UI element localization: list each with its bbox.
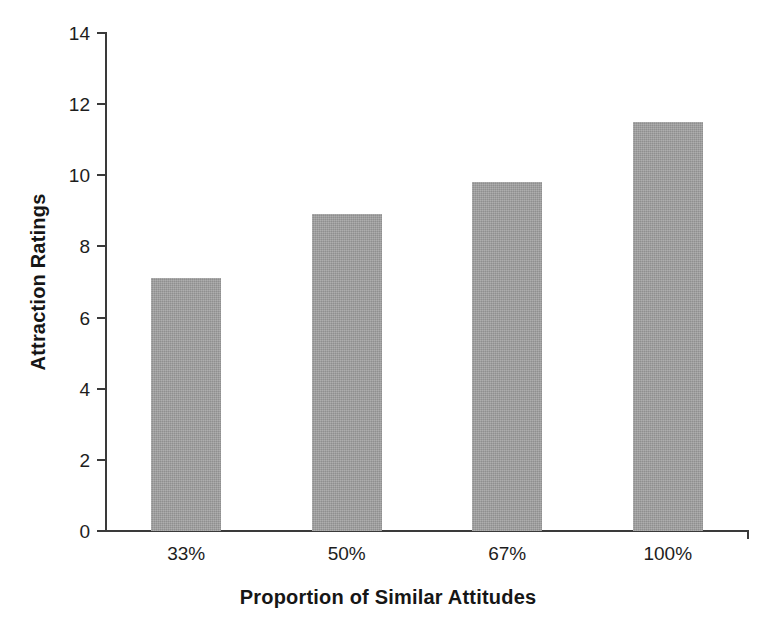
y-axis-tick-label: 4 [54,379,90,398]
y-axis-tick [97,530,106,532]
bar [472,182,542,531]
x-axis-tick-label: 100% [643,543,692,565]
bar [633,122,703,531]
y-axis-tick [97,388,106,390]
y-axis-tick-label: 12 [54,95,90,114]
x-axis-title: Proportion of Similar Attitudes [0,586,776,609]
y-axis-tick [97,245,106,247]
y-axis-tick-label: 2 [54,450,90,469]
x-axis-tick-label: 50% [328,543,366,565]
y-axis-tick-label: 0 [54,522,90,541]
y-axis-tick [97,174,106,176]
x-axis-end-tick [747,530,749,539]
bar-chart-figure: 02468101214 33%50%67%100% Proportion of … [0,0,776,629]
x-axis-tick-label: 67% [488,543,526,565]
y-axis-tick [97,317,106,319]
y-axis-tick-label: 6 [54,308,90,327]
y-axis-tick-label: 10 [54,166,90,185]
y-axis-tick-label: 14 [54,24,90,43]
y-axis-title: Attraction Ratings [18,33,58,531]
y-axis-tick [97,32,106,34]
y-axis-tick [97,103,106,105]
y-axis-tick-label: 8 [54,237,90,256]
x-axis-tick-label: 33% [167,543,205,565]
bar [312,214,382,531]
bar [151,278,221,531]
y-axis-tick [97,459,106,461]
plot-area [106,33,748,531]
